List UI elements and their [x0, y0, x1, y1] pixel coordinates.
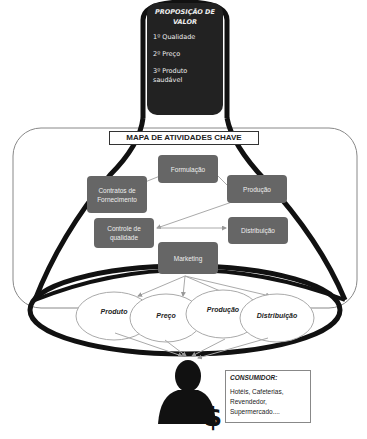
consumer-line: Supermercado.... — [230, 407, 306, 417]
activity-formulacao: Formulação — [158, 155, 218, 183]
activity-marketing: Marketing — [158, 242, 218, 274]
activity-controle-qualidade: Controle de qualidade — [94, 218, 154, 248]
value-proposition-box: PROPOSIÇÃO DE VALOR 1º Qualidade 2º Preç… — [147, 3, 223, 115]
mix-preco: Preço — [138, 312, 194, 319]
activity-distribuicao: Distribuição — [228, 217, 288, 244]
consumer-line: Revendedor, — [230, 397, 306, 407]
consumer-line: Hotéis, Cafeterias, — [230, 387, 306, 397]
consumer-icon: $ — [158, 360, 222, 432]
mix-produto: Produto — [86, 308, 142, 315]
mix-distribuicao: Distribuição — [246, 312, 308, 319]
activity-contratos: Contratos de Fornecimento — [87, 176, 147, 213]
consumer-box: CONSUMIDOR: Hotéis, Cafeterias, Revended… — [225, 370, 311, 423]
mix-producao: Produção — [195, 306, 251, 313]
value-item: 3º Produto saudável — [153, 67, 217, 85]
value-item: 2º Preço — [153, 50, 217, 59]
svg-text:$: $ — [204, 402, 222, 432]
activity-producao: Produção — [227, 175, 287, 203]
activity-map-title: MAPA DE ATIVIDADES CHAVE — [109, 131, 259, 145]
value-proposition-title: PROPOSIÇÃO DE VALOR — [153, 7, 217, 27]
value-item: 1º Qualidade — [153, 33, 217, 42]
consumer-title: CONSUMIDOR: — [230, 374, 306, 381]
